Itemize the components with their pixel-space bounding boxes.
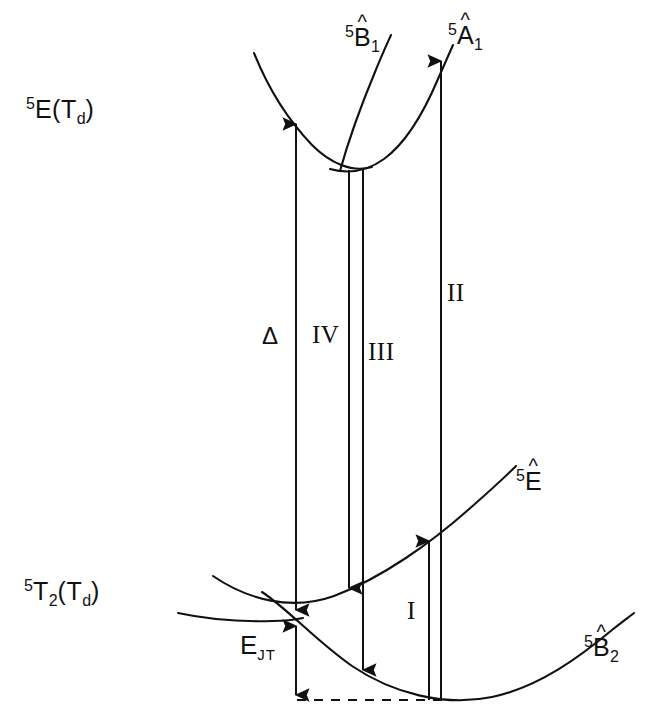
label-lower-manifold-base-sub: 2 xyxy=(49,592,58,609)
circumflex-icon: ^ xyxy=(461,10,471,30)
label-upper-manifold-paren-close: ) xyxy=(86,95,95,123)
label-lower-manifold-point-group: T xyxy=(66,577,82,605)
label-lower-manifold: 5T2(Td) xyxy=(24,578,100,609)
curve-lower-parabola-b2 xyxy=(262,592,634,700)
label-branch-b2: 5^B2 xyxy=(584,634,619,665)
label-branch-a1-sub: 1 xyxy=(474,36,483,53)
label-branch-b2-superscript: 5 xyxy=(584,633,593,650)
label-branch-e: 5^E xyxy=(516,468,542,494)
label-upper-manifold-point-group: T xyxy=(61,95,77,123)
circumflex-icon: ^ xyxy=(358,12,368,32)
label-branch-e-base-wrap: ^E xyxy=(525,469,542,494)
label-transition-ii: II xyxy=(447,280,465,305)
curve-upper-parabola-left-limb xyxy=(340,35,391,171)
label-branch-b2-base-wrap: ^B xyxy=(593,635,610,660)
label-branch-b1: 5^B1 xyxy=(345,24,380,55)
label-transition-i: I xyxy=(407,598,416,623)
curve-upper-descending-b1-left xyxy=(254,53,372,169)
label-branch-a1-base-wrap: ^A xyxy=(457,23,474,48)
label-energy-ejt-sub: JT xyxy=(257,646,276,663)
potential-energy-diagram: 5E(Td) 5T2(Td) 5^B1 5^A1 5^E 5^B2 Δ IV I… xyxy=(0,0,653,716)
label-energy-ejt-base: E xyxy=(240,630,257,660)
circumflex-icon: ^ xyxy=(529,456,539,476)
label-upper-manifold-base: E xyxy=(35,95,52,123)
label-upper-manifold-superscript: 5 xyxy=(26,95,35,112)
label-energy-ejt: EJT xyxy=(240,632,276,662)
label-branch-a1: 5^A1 xyxy=(448,22,483,53)
label-lower-manifold-base: T xyxy=(33,577,49,605)
label-lower-manifold-superscript: 5 xyxy=(24,577,33,594)
circumflex-icon: ^ xyxy=(597,622,607,642)
label-upper-manifold-paren-open: ( xyxy=(52,95,61,123)
label-transition-iv: IV xyxy=(312,322,339,347)
label-lower-manifold-point-group-sub: d xyxy=(82,592,91,609)
label-transition-delta: Δ xyxy=(262,324,278,348)
label-branch-b2-sub: 2 xyxy=(610,648,619,665)
label-branch-a1-superscript: 5 xyxy=(448,21,457,38)
curve-lower-left-flat xyxy=(178,613,303,621)
curve-upper-parabola-right-limb xyxy=(330,45,453,172)
label-upper-manifold-point-group-sub: d xyxy=(77,110,86,127)
label-branch-b1-superscript: 5 xyxy=(345,23,354,40)
label-branch-e-superscript: 5 xyxy=(516,467,525,484)
label-branch-b1-base-wrap: ^B xyxy=(354,25,371,50)
curve-lower-rising-e xyxy=(213,466,516,603)
label-branch-b1-sub: 1 xyxy=(371,38,380,55)
label-lower-manifold-paren-close: ) xyxy=(91,577,100,605)
label-upper-manifold: 5E(Td) xyxy=(26,96,94,127)
label-transition-iii: III xyxy=(368,339,394,364)
